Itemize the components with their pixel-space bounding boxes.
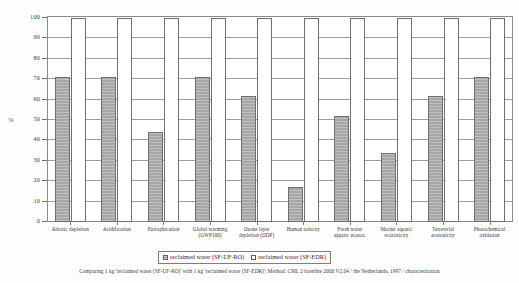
gridline — [48, 78, 512, 79]
legend-item-series-b: reclaimed water (SF-EDR) — [251, 253, 326, 261]
x-axis-label: Abiotic depletion — [47, 226, 94, 239]
x-axis-label: Terrestrialecotoxicity — [420, 226, 467, 239]
y-tick-label: 60 — [33, 95, 40, 101]
y-tick-label: 40 — [33, 136, 40, 142]
legend-label-series-b: reclaimed water (SF-EDR) — [258, 253, 326, 261]
x-axis-label: Marine aquaticecotoxicity — [373, 226, 420, 239]
plot-area — [47, 16, 513, 222]
gridline — [48, 201, 512, 202]
y-axis: % 1009080706050403020100 — [0, 16, 47, 222]
x-axis-label-line1: Human toxicity — [281, 226, 326, 232]
x-axis-label-line2: aquatic ecotox. — [328, 232, 373, 238]
legend-swatch-icon-series-b — [251, 255, 256, 260]
x-axis-label: Photochemicaloxidation — [466, 226, 513, 239]
y-tick-label: 70 — [33, 75, 40, 81]
y-tick-label: 50 — [33, 116, 40, 122]
gridline — [48, 99, 512, 100]
x-axis-label: Ozone layerdepletion (ODP) — [233, 226, 280, 239]
gridline — [48, 160, 512, 161]
y-tick-label: 10 — [33, 197, 40, 203]
gridline — [48, 58, 512, 59]
x-axis-label: Fresh wateraquatic ecotox. — [327, 226, 374, 239]
x-axis-label-line2: (GWP100) — [188, 232, 233, 238]
y-tick-label: 80 — [33, 55, 40, 61]
gridline — [48, 180, 512, 181]
figure-caption: Comparing 1 kg 'reclaimed water (SF-UF-R… — [0, 268, 519, 275]
x-axis-label-line2: oxidation — [467, 232, 512, 238]
y-axis-title: % — [8, 116, 13, 123]
gridline — [48, 119, 512, 120]
x-axis-label-line1: Abiotic depletion — [48, 226, 93, 232]
x-axis-label: Human toxicity — [280, 226, 327, 239]
x-axis-labels: Abiotic depletionAcidificationEutrophica… — [47, 226, 513, 239]
y-tick-label: 0 — [37, 218, 40, 224]
gridline — [48, 139, 512, 140]
legend-swatch-icon-series-a — [163, 255, 168, 260]
gridline — [48, 37, 512, 38]
x-axis-label: Acidification — [94, 226, 141, 239]
chart-page: % 1009080706050403020100 Abiotic depleti… — [0, 0, 519, 283]
y-tick-label: 90 — [33, 34, 40, 40]
y-tick-label: 20 — [33, 177, 40, 183]
x-axis-label: Eutrophication — [140, 226, 187, 239]
x-axis-label-line1: Eutrophication — [141, 226, 186, 232]
y-tick-label: 100 — [30, 14, 40, 20]
y-tick-label: 30 — [33, 157, 40, 163]
x-axis-label-line2: depletion (ODP) — [234, 232, 279, 238]
x-axis-label-line2: ecotoxicity — [421, 232, 466, 238]
legend-item-series-a: reclaimed water (SF-UF-RO) — [163, 253, 244, 261]
x-axis-label-line2: ecotoxicity — [374, 232, 419, 238]
chart-legend: reclaimed water (SF-UF-RO) reclaimed wat… — [158, 251, 331, 264]
legend-label-series-a: reclaimed water (SF-UF-RO) — [170, 253, 244, 261]
x-axis-label-line1: Acidification — [95, 226, 140, 232]
x-axis-label: Global warming(GWP100) — [187, 226, 234, 239]
